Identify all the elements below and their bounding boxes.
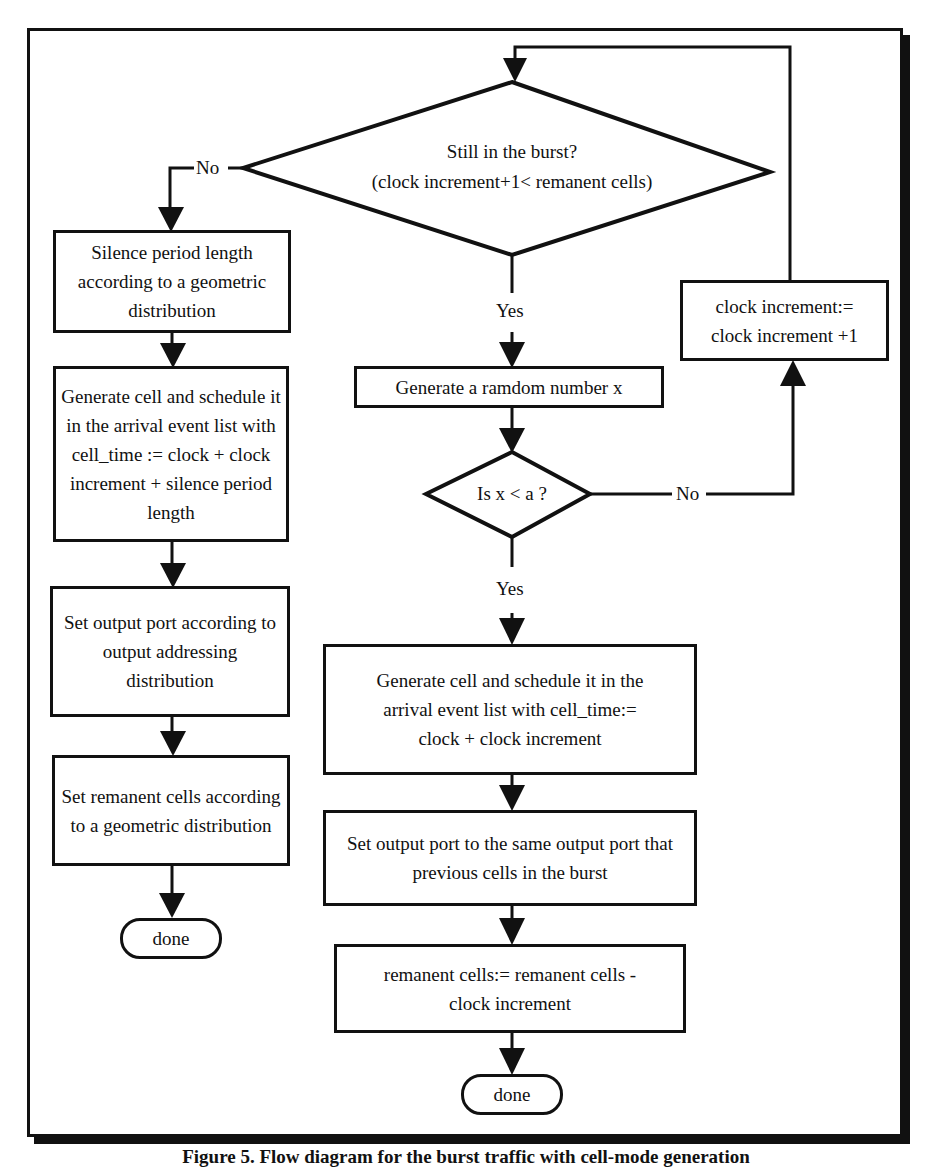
random-no-label: No bbox=[674, 483, 701, 505]
arrow-down-icon bbox=[159, 893, 185, 918]
left-generate-cell-box: Generate cell and schedule it in the arr… bbox=[53, 366, 289, 542]
burst-decision-line1: Still in the burst? bbox=[300, 137, 724, 167]
arrow-down-icon bbox=[499, 918, 525, 945]
burst-decision-line2: (clock increment+1< remanent cells) bbox=[300, 167, 724, 197]
random-yes-label: Yes bbox=[494, 578, 526, 600]
burst-decision-text: Still in the burst? (clock increment+1< … bbox=[300, 137, 724, 197]
arrow-down-icon bbox=[158, 207, 184, 232]
left-output-port-box: Set output port according to output addr… bbox=[50, 586, 290, 717]
left-remanent-cells-box: Set remanent cells according to a geomet… bbox=[52, 755, 290, 866]
arrow-up-icon bbox=[780, 360, 806, 386]
middle-generate-cell-box: Generate cell and schedule it in the arr… bbox=[323, 644, 697, 775]
random-decision-text: Is x < a ? bbox=[440, 479, 584, 509]
arrow-down-icon bbox=[503, 58, 527, 82]
middle-done-terminal: done bbox=[461, 1074, 563, 1115]
burst-yes-label: Yes bbox=[494, 300, 526, 322]
middle-remanent-cells-box: remanent cells:= remanent cells - clock … bbox=[334, 944, 686, 1033]
arrow-down-icon bbox=[499, 785, 525, 811]
figure-caption: Figure 5. Flow diagram for the burst tra… bbox=[0, 1146, 932, 1168]
clock-increment-box: clock increment:= clock increment +1 bbox=[680, 280, 889, 361]
arrow-down-icon bbox=[160, 563, 186, 588]
arrow-down-icon bbox=[160, 731, 186, 756]
random-number-box: Generate a ramdom number x bbox=[354, 366, 664, 408]
left-done-terminal: done bbox=[120, 918, 222, 959]
middle-output-port-box: Set output port to the same output port … bbox=[323, 810, 697, 906]
arrow-down-icon bbox=[499, 1048, 525, 1075]
arrow-down-icon bbox=[499, 618, 525, 645]
silence-period-box: Silence period length according to a geo… bbox=[53, 230, 291, 333]
arrow-down-icon bbox=[160, 343, 186, 368]
arrow-down-icon bbox=[499, 342, 525, 368]
arrow-down-icon bbox=[499, 428, 525, 453]
burst-no-label: No bbox=[194, 157, 221, 179]
